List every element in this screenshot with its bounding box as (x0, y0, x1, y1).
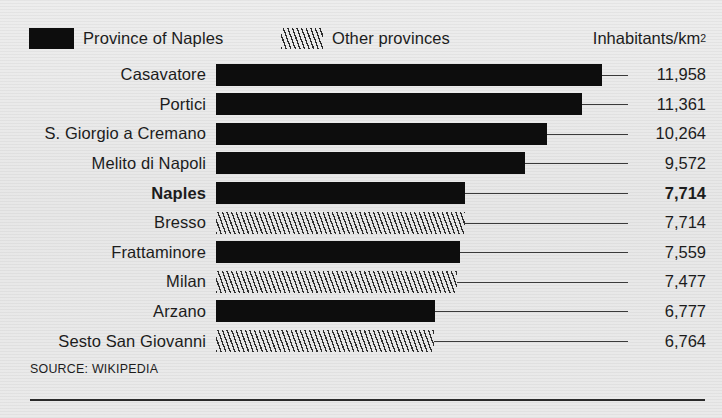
bar-row-label: Casavatore (0, 60, 206, 90)
bar-value-label: 7,477 (622, 267, 706, 297)
value-leader-line (457, 282, 628, 283)
bottom-rule-divider (30, 399, 705, 401)
population-density-bar-chart: Province of Naples Other provinces Inhab… (0, 0, 722, 418)
value-leader-line (525, 163, 628, 164)
legend-label-other-provinces: Other provinces (332, 30, 450, 47)
value-leader-line (465, 223, 628, 224)
diagonal-hatch-swatch-icon (281, 28, 323, 49)
bar-value-label: 9,572 (622, 149, 706, 179)
bar-value-label: 6,777 (622, 297, 706, 327)
bar-row-label: Milan (0, 267, 206, 297)
bar-value-label: 7,714 (622, 208, 706, 238)
bar-province-of-naples (216, 182, 465, 204)
value-leader-line (460, 252, 628, 253)
bar-row: Milan7,477 (0, 267, 722, 297)
chart-legend: Province of Naples Other provinces Inhab… (0, 22, 722, 54)
bar-other-province (216, 330, 434, 352)
bar-value-label: 11,958 (622, 60, 706, 90)
source-credit: SOURCE: WIKIPEDIA (30, 362, 158, 376)
bar-value-label: 10,264 (622, 119, 706, 149)
bar-province-of-naples (216, 241, 460, 263)
bar-row-label: Arzano (0, 297, 206, 327)
bar-row: Casavatore11,958 (0, 60, 722, 90)
bar-row: Naples7,714 (0, 178, 722, 208)
axis-units-text: Inhabitants/km (593, 29, 700, 48)
bar-row: S. Giorgio a Cremano10,264 (0, 119, 722, 149)
value-leader-line (465, 193, 628, 194)
bar-row-label: Portici (0, 90, 206, 120)
bar-province-of-naples (216, 152, 525, 174)
bar-province-of-naples (216, 123, 547, 145)
axis-units-label: Inhabitants/km2 (593, 22, 706, 54)
bar-other-province (216, 212, 465, 234)
legend-item-other-provinces: Other provinces (281, 22, 450, 54)
bar-row-label: Bresso (0, 208, 206, 238)
bar-value-label: 6,764 (622, 326, 706, 356)
legend-item-province-of-naples: Province of Naples (29, 22, 223, 54)
bar-province-of-naples (216, 64, 602, 86)
bar-value-label: 7,559 (622, 238, 706, 268)
solid-black-swatch-icon (29, 28, 74, 49)
bar-row-label: Naples (0, 178, 206, 208)
bar-value-label: 11,361 (622, 90, 706, 120)
bar-row-label: S. Giorgio a Cremano (0, 119, 206, 149)
bar-province-of-naples (216, 300, 435, 322)
bar-value-label: 7,714 (622, 178, 706, 208)
bar-row-label: Frattaminore (0, 238, 206, 268)
bar-row: Portici11,361 (0, 90, 722, 120)
bar-row: Bresso7,714 (0, 208, 722, 238)
bar-row: Sesto San Giovanni6,764 (0, 326, 722, 356)
bar-rows: Casavatore11,958Portici11,361S. Giorgio … (0, 60, 722, 356)
bar-row-label: Melito di Napoli (0, 149, 206, 179)
value-leader-line (434, 341, 628, 342)
value-leader-line (547, 134, 628, 135)
bar-row: Frattaminore7,559 (0, 238, 722, 268)
bar-other-province (216, 271, 457, 293)
bar-province-of-naples (216, 93, 582, 115)
bar-row: Melito di Napoli9,572 (0, 149, 722, 179)
bar-row-label: Sesto San Giovanni (0, 326, 206, 356)
bar-row: Arzano6,777 (0, 297, 722, 327)
value-leader-line (435, 311, 628, 312)
legend-label-province-of-naples: Province of Naples (83, 30, 223, 47)
